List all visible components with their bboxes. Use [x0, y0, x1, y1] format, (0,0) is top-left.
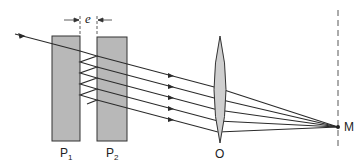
plate-p1: [52, 36, 80, 141]
plate-p2: [97, 37, 127, 141]
ray-arrows: [168, 73, 174, 122]
label-p1: P1: [60, 147, 72, 162]
label-focus-m: M: [344, 121, 354, 133]
optics-diagram: [0, 0, 359, 165]
lens-o: [214, 36, 226, 143]
label-lens-o: O: [215, 148, 224, 160]
focus-point-m: [336, 125, 340, 129]
label-p2: P2: [106, 147, 118, 162]
label-gap-e: e: [85, 12, 91, 25]
diagram-stage: P1 P2 e O M: [0, 0, 359, 165]
